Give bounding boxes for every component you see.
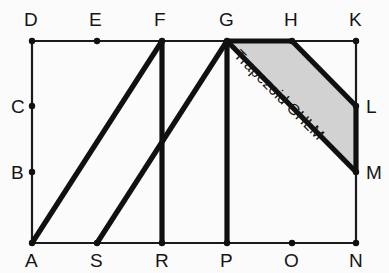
vertex-label-f: F (154, 9, 166, 30)
vertex-dot-g (224, 38, 230, 44)
vertex-dot-d (29, 38, 35, 44)
vertex-dot-s (94, 240, 100, 246)
vertex-dot-m (353, 169, 359, 175)
vertex-label-o: O (284, 250, 299, 271)
geometry-canvas: DEFGHKCBLMASRPON Trapezoid GHLM (0, 0, 389, 273)
vertex-dot-n (353, 240, 359, 246)
vertex-label-p: P (220, 250, 233, 271)
vertex-dot-h (289, 38, 295, 44)
vertex-label-d: D (24, 9, 38, 30)
vertex-dot-e (94, 38, 100, 44)
vertex-label-e: E (89, 9, 102, 30)
vertex-label-a: A (25, 250, 38, 271)
vertex-dot-o (289, 240, 295, 246)
vertex-label-r: R (155, 250, 169, 271)
vertex-dot-b (29, 169, 35, 175)
vertex-label-s: S (90, 250, 103, 271)
vertex-label-m: M (366, 162, 382, 183)
vertex-dot-a (29, 240, 35, 246)
vertex-dot-c (29, 103, 35, 109)
diagonal-AF (32, 41, 162, 243)
vertex-label-h: H (284, 9, 298, 30)
vertex-label-b: B (11, 162, 24, 183)
vertex-label-l: L (366, 96, 377, 117)
vertex-dot-f (159, 38, 165, 44)
vertex-dot-l (353, 103, 359, 109)
vertex-label-k: K (349, 9, 362, 30)
geometry-figure: DEFGHKCBLMASRPON Trapezoid GHLM (0, 0, 389, 273)
vertex-dot-k (353, 38, 359, 44)
vertex-label-c: C (11, 96, 25, 117)
vertex-label-g: G (219, 9, 234, 30)
vertex-dot-r (159, 240, 165, 246)
vertex-dot-p (224, 240, 230, 246)
vertex-label-n: N (349, 250, 363, 271)
